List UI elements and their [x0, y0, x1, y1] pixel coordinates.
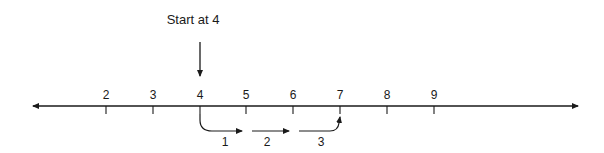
tick-group: 2 3 4 5 6 7 8 9: [103, 88, 438, 114]
tick-label: 8: [384, 88, 391, 102]
hop-label: 2: [264, 135, 271, 149]
hop-group: 1 2 3: [200, 114, 340, 149]
number-line-diagram: Start at 4 2 3 4 5 6 7 8 9 1 2 3: [0, 0, 604, 153]
hop-arrow-1-icon: [200, 114, 242, 131]
tick-label: 9: [431, 88, 438, 102]
tick-label: 6: [290, 88, 297, 102]
hop-arrow-3-icon: [299, 117, 340, 131]
start-annotation: Start at 4: [167, 12, 220, 27]
tick-label: 2: [103, 88, 110, 102]
hop-label: 1: [222, 135, 229, 149]
tick-label: 7: [337, 88, 344, 102]
tick-label: 3: [150, 88, 157, 102]
tick-label: 5: [243, 88, 250, 102]
tick-label: 4: [197, 88, 204, 102]
hop-label: 3: [318, 135, 325, 149]
